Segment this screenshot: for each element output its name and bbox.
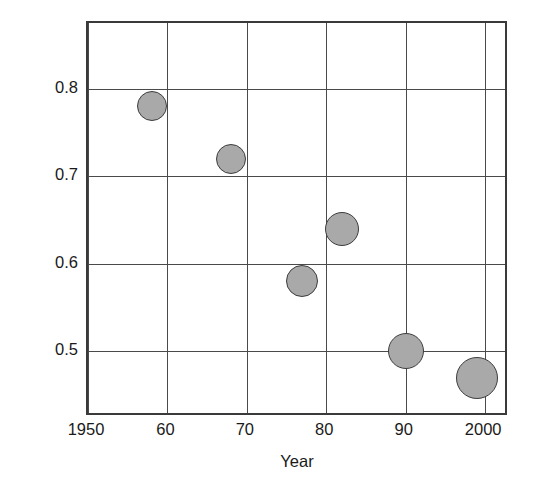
gridline-horizontal <box>88 176 505 177</box>
data-point-marker <box>216 144 246 174</box>
scatter-chart-figure: Specific fuel consumption (sfc) lb/SHP h… <box>0 0 544 492</box>
data-point-marker <box>286 265 318 297</box>
data-point-marker <box>388 333 424 369</box>
y-tick-label: 0.8 <box>55 77 78 96</box>
plot-area <box>86 21 507 415</box>
gridline-vertical <box>247 23 248 413</box>
x-tick-label: 90 <box>395 420 413 439</box>
gridline-horizontal <box>88 351 505 352</box>
gridline-vertical <box>167 23 168 413</box>
y-axis-tick-labels: 0.80.70.60.5 <box>30 0 78 492</box>
x-tick-label: 70 <box>236 420 254 439</box>
x-tick-label: 2000 <box>465 420 502 439</box>
x-tick-label: 1950 <box>68 420 105 439</box>
gridline-vertical <box>88 23 89 413</box>
gridline-vertical <box>485 23 486 413</box>
gridline-horizontal <box>88 264 505 265</box>
x-axis-title: Year <box>86 452 508 471</box>
gridline-vertical <box>326 23 327 413</box>
y-tick-label: 0.5 <box>55 340 78 359</box>
x-tick-label: 80 <box>315 420 333 439</box>
y-tick-label: 0.7 <box>55 165 78 184</box>
data-point-marker <box>137 91 167 121</box>
data-point-marker <box>456 357 498 399</box>
x-tick-label: 60 <box>156 420 174 439</box>
data-point-marker <box>325 212 359 246</box>
y-tick-label: 0.6 <box>55 252 78 271</box>
gridline-horizontal <box>88 89 505 90</box>
